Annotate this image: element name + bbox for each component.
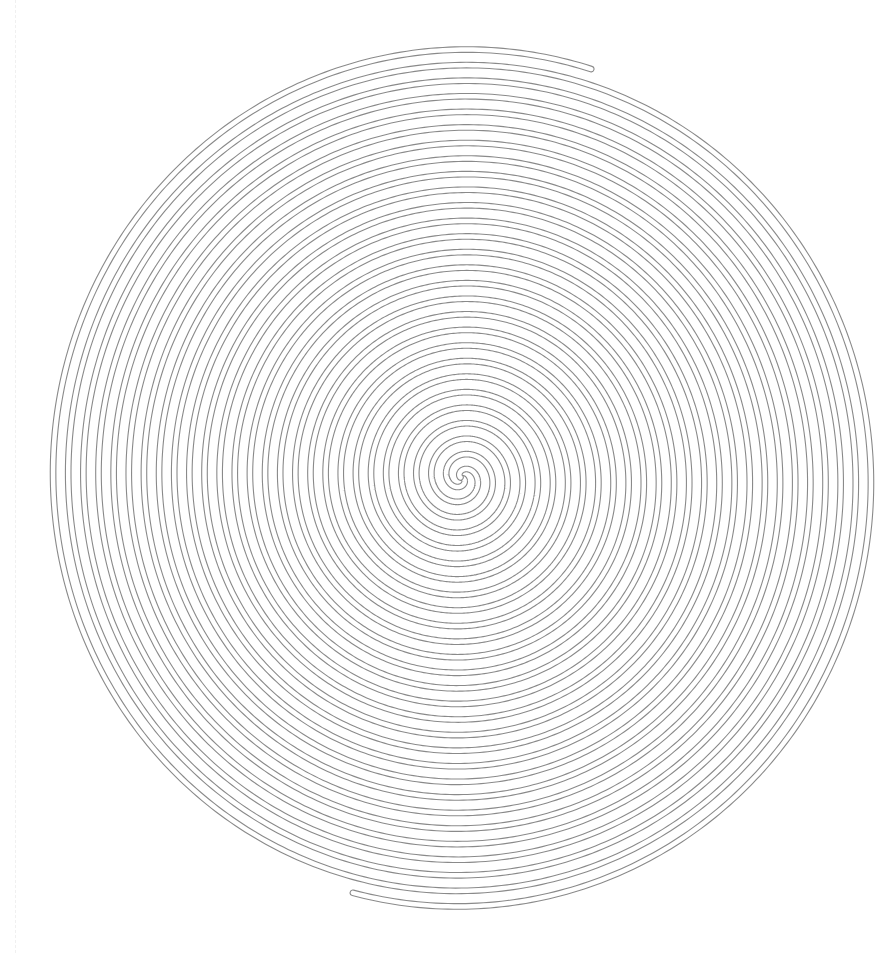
spiral-arm-a	[53, 50, 856, 891]
spiral-arm-b-fill	[68, 65, 871, 906]
spiral-figure	[0, 0, 895, 953]
spiral-arm-a-fill	[53, 50, 856, 891]
spiral-arm-b	[68, 65, 871, 906]
